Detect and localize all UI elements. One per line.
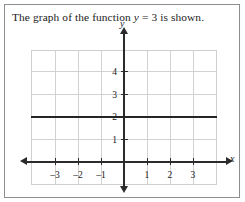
x-tick: [101, 158, 102, 165]
x-tick-label: –3: [50, 169, 60, 180]
y-tick: [121, 139, 128, 140]
x-tick: [78, 158, 79, 165]
y-axis-down-arrow-icon: [120, 186, 128, 193]
y-tick: [121, 94, 128, 95]
x-axis-left-arrow-icon: [20, 157, 27, 165]
x-tick: [170, 158, 171, 165]
y-tick-label: 3: [105, 89, 117, 100]
y-axis-label: y: [120, 18, 124, 29]
x-tick-label: –2: [73, 169, 83, 180]
problem-card: The graph of the function y = 3 is shown…: [4, 4, 240, 198]
x-axis-label: x: [230, 153, 234, 164]
x-tick: [55, 158, 56, 165]
x-tick-label: –1: [96, 169, 106, 180]
x-tick-label: 2: [168, 169, 173, 180]
y-tick: [121, 71, 128, 72]
y-axis: [123, 33, 125, 191]
statement-text-before: The graph of the function: [12, 11, 134, 23]
y-tick-label: 4: [105, 66, 117, 77]
y-tick-label: 1: [105, 134, 117, 145]
function-line-y-equals-3: [31, 116, 217, 118]
x-tick: [147, 158, 148, 165]
coordinate-plane: –3 –2 –1 1 2 3 1 2 3 4 y x: [27, 31, 233, 193]
x-tick-label: 3: [191, 169, 196, 180]
screenshot-root: The graph of the function y = 3 is shown…: [0, 0, 245, 202]
x-tick: [193, 158, 194, 165]
statement-text-after: = 3 is shown.: [139, 11, 204, 23]
x-tick-label: 1: [145, 169, 150, 180]
problem-statement: The graph of the function y = 3 is shown…: [12, 10, 237, 25]
